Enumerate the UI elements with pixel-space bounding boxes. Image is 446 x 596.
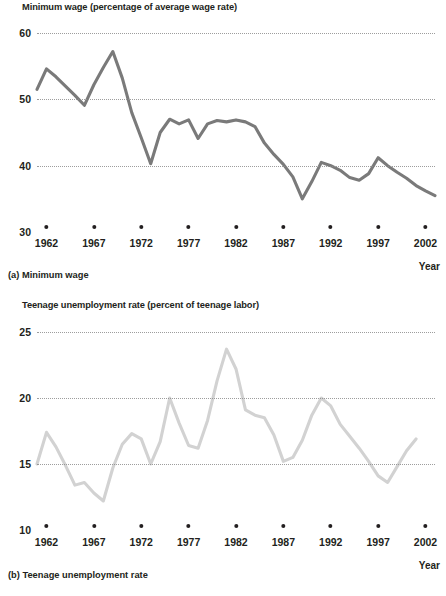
- gridline-40: [37, 166, 435, 167]
- chart-a-year-label: Year: [419, 261, 440, 272]
- chart-b-x-tick-1982: 1982: [224, 524, 247, 548]
- data-line: [37, 52, 435, 199]
- chart-a-x-tick-1987: 1987: [272, 225, 295, 249]
- x-tick-label-1982: 1982: [224, 536, 247, 548]
- x-tick-dot: [281, 524, 285, 528]
- chart-a-line-series: [37, 33, 435, 232]
- x-tick-dot: [44, 524, 48, 528]
- x-tick-dot: [376, 524, 380, 528]
- x-tick-dot: [187, 225, 191, 229]
- x-tick-label-1977: 1977: [177, 536, 200, 548]
- data-line: [37, 349, 416, 501]
- chart-b-x-tick-1992: 1992: [319, 524, 342, 548]
- x-tick-dot: [424, 225, 428, 229]
- x-tick-dot: [92, 225, 96, 229]
- gridline-60: [37, 33, 435, 34]
- x-tick-dot: [376, 225, 380, 229]
- x-tick-label-1997: 1997: [366, 237, 389, 249]
- x-tick-dot: [329, 225, 333, 229]
- x-tick-label-1962: 1962: [35, 536, 58, 548]
- gridline-50: [37, 99, 435, 100]
- x-tick-dot: [234, 225, 238, 229]
- chart-a-x-tick-1997: 1997: [366, 225, 389, 249]
- y-tick-label-60: 60: [19, 27, 31, 39]
- x-tick-label-1987: 1987: [272, 536, 295, 548]
- chart-a-x-tick-1977: 1977: [177, 225, 200, 249]
- x-tick-label-1992: 1992: [319, 536, 342, 548]
- y-tick-label-15: 15: [19, 458, 31, 470]
- chart-b-x-tick-1962: 1962: [35, 524, 58, 548]
- x-tick-label-2002: 2002: [414, 237, 437, 249]
- chart-a-x-tick-1972: 1972: [130, 225, 153, 249]
- x-tick-dot: [139, 225, 143, 229]
- chart-a-x-tick-2002: 2002: [414, 225, 437, 249]
- y-tick-label-30: 30: [19, 226, 31, 238]
- y-tick-label-25: 25: [19, 326, 31, 338]
- x-tick-dot: [44, 225, 48, 229]
- x-tick-label-1967: 1967: [82, 536, 105, 548]
- chart-b-x-tick-1987: 1987: [272, 524, 295, 548]
- chart-b-x-tick-1972: 1972: [130, 524, 153, 548]
- chart-b-line-series: [37, 332, 435, 530]
- x-tick-dot: [329, 524, 333, 528]
- x-tick-label-2002: 2002: [414, 536, 437, 548]
- gridline-25: [37, 332, 435, 333]
- chart-panel-teenage-unemployment: Teenage unemployment rate (percent of te…: [0, 296, 446, 596]
- y-tick-label-20: 20: [19, 392, 31, 404]
- chart-b-axis-title: Teenage unemployment rate (percent of te…: [22, 300, 259, 310]
- x-tick-label-1997: 1997: [366, 536, 389, 548]
- x-tick-dot: [139, 524, 143, 528]
- chart-a-x-tick-1962: 1962: [35, 225, 58, 249]
- gridline-20: [37, 398, 435, 399]
- chart-b-x-tick-2002: 2002: [414, 524, 437, 548]
- x-tick-label-1992: 1992: [319, 237, 342, 249]
- chart-b-x-tick-1967: 1967: [82, 524, 105, 548]
- chart-b-x-tick-1997: 1997: [366, 524, 389, 548]
- chart-a-x-tick-1982: 1982: [224, 225, 247, 249]
- chart-a-axis-title: Minimum wage (percentage of average wage…: [22, 2, 237, 12]
- x-tick-label-1962: 1962: [35, 237, 58, 249]
- x-tick-dot: [92, 524, 96, 528]
- y-tick-label-10: 10: [19, 524, 31, 536]
- chart-b-caption: (b) Teenage unemployment rate: [8, 570, 148, 580]
- chart-b-year-label: Year: [419, 560, 440, 571]
- x-tick-label-1972: 1972: [130, 237, 153, 249]
- chart-a-caption: (a) Minimum wage: [8, 270, 89, 280]
- x-tick-label-1972: 1972: [130, 536, 153, 548]
- y-tick-label-50: 50: [19, 93, 31, 105]
- x-tick-dot: [281, 225, 285, 229]
- x-tick-label-1967: 1967: [82, 237, 105, 249]
- chart-b-plot-area: 10152025: [37, 332, 435, 530]
- gridline-15: [37, 464, 435, 465]
- x-tick-dot: [424, 524, 428, 528]
- chart-b-x-tick-1977: 1977: [177, 524, 200, 548]
- chart-a-x-tick-1967: 1967: [82, 225, 105, 249]
- x-tick-label-1982: 1982: [224, 237, 247, 249]
- x-tick-label-1977: 1977: [177, 237, 200, 249]
- y-tick-label-40: 40: [19, 160, 31, 172]
- x-tick-label-1987: 1987: [272, 237, 295, 249]
- chart-a-plot-area: 30405060: [37, 33, 435, 232]
- chart-panel-minimum-wage: Minimum wage (percentage of average wage…: [0, 0, 446, 290]
- chart-a-x-tick-1992: 1992: [319, 225, 342, 249]
- x-tick-dot: [234, 524, 238, 528]
- x-tick-dot: [187, 524, 191, 528]
